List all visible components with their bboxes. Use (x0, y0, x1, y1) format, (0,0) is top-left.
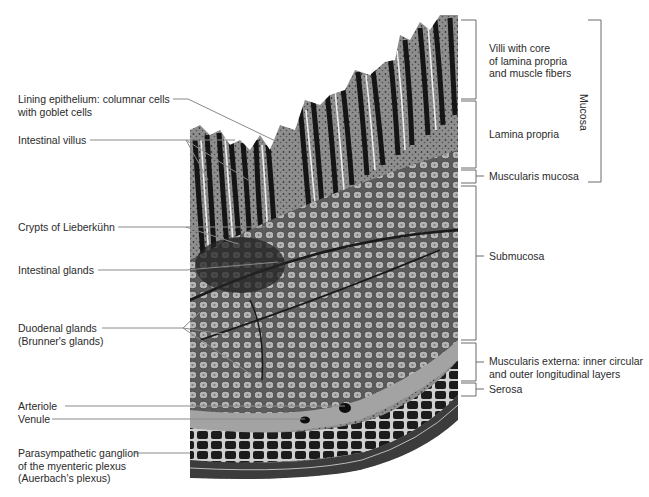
label-line: Venule (18, 413, 50, 426)
label-line: Villi with core (489, 42, 571, 55)
label-arteriole: Arteriole (18, 400, 57, 413)
label-venule: Venule (18, 413, 50, 426)
label-line: Lamina propria (489, 128, 559, 141)
label-line: of the myenteric plexus (18, 460, 139, 473)
label-lamina-propria: Lamina propria (489, 128, 559, 141)
label-line: and outer longitudinal layers (489, 368, 643, 381)
label-line: Muscularis externa: inner circular (489, 355, 643, 368)
label-line: Submucosa (489, 250, 544, 263)
label-line: with goblet cells (18, 106, 170, 119)
label-intestinal-glands: Intestinal glands (18, 264, 94, 277)
label-villi-core: Villi with core of lamina propria and mu… (489, 42, 571, 80)
label-mucosa-group: Mucosa (578, 94, 591, 131)
label-intestinal-villus: Intestinal villus (18, 134, 86, 147)
label-line: of lamina propria (489, 55, 571, 68)
label-line: Intestinal villus (18, 134, 86, 147)
label-crypts-of-lieberkuhn: Crypts of Lieberkühn (18, 221, 115, 234)
label-lining-epithelium: Lining epithelium: columnar cells with g… (18, 93, 170, 118)
label-muscularis-externa: Muscularis externa: inner circular and o… (489, 355, 643, 380)
label-submucosa: Submucosa (489, 250, 544, 263)
label-serosa: Serosa (489, 383, 522, 396)
label-muscularis-mucosa: Muscularis mucosa (489, 170, 579, 183)
label-parasympathetic-ganglion: Parasympathetic ganglion of the myenteri… (18, 447, 139, 485)
label-line: Crypts of Lieberkühn (18, 221, 115, 234)
label-line: Parasympathetic ganglion (18, 447, 139, 460)
label-line: Duodenal glands (18, 322, 103, 335)
label-line: Serosa (489, 383, 522, 396)
label-line: Muscularis mucosa (489, 170, 579, 183)
label-line: Arteriole (18, 400, 57, 413)
label-line: Intestinal glands (18, 264, 94, 277)
label-line: (Auerbach's plexus) (18, 472, 139, 485)
label-duodenal-glands: Duodenal glands (Brunner's glands) (18, 322, 103, 347)
label-line: (Brunner's glands) (18, 335, 103, 348)
histology-figure: Lining epithelium: columnar cells with g… (0, 0, 649, 497)
label-line: and muscle fibers (489, 67, 571, 80)
label-line: Lining epithelium: columnar cells (18, 93, 170, 106)
